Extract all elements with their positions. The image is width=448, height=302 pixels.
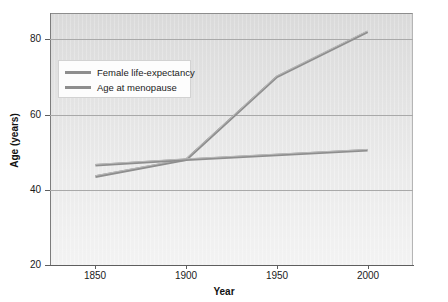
legend-item-female-life-expectancy: Female life-expectancy (65, 65, 184, 80)
gridline (50, 39, 413, 40)
x-tick-label: 2000 (346, 271, 390, 281)
gridline (50, 115, 413, 116)
plot-area (50, 13, 413, 265)
x-tick-label: 1900 (164, 271, 208, 281)
y-tick-mark (45, 190, 50, 191)
y-tick-mark (45, 265, 50, 266)
legend-label: Female life-expectancy (97, 68, 195, 78)
y-tick-label: 20 (30, 260, 41, 270)
chart-figure: 20406080 1850190019502000 Female life-ex… (0, 0, 448, 302)
x-tick-mark (277, 265, 278, 269)
y-axis-line (50, 13, 51, 266)
x-tick-label: 1850 (73, 271, 117, 281)
y-tick-label: 80 (30, 34, 41, 44)
x-axis-title: Year (0, 286, 448, 297)
y-tick-mark (45, 115, 50, 116)
plot-shading (50, 14, 412, 265)
legend-item-age-at-menopause: Age at menopause (65, 80, 184, 95)
x-tick-mark (95, 265, 96, 269)
legend-line-swatch-icon (65, 71, 91, 74)
plot-texture (50, 14, 412, 265)
chart-legend: Female life-expectancy Age at menopause (58, 60, 191, 98)
gridline (50, 190, 413, 191)
legend-label: Age at menopause (97, 83, 177, 93)
x-tick-mark (368, 265, 369, 269)
legend-line-swatch-icon (65, 86, 91, 89)
y-tick-mark (45, 39, 50, 40)
x-tick-label: 1950 (255, 271, 299, 281)
x-tick-mark (186, 265, 187, 269)
y-tick-label: 60 (30, 110, 41, 120)
y-tick-label: 40 (30, 185, 41, 195)
y-axis-title: Age (years) (9, 91, 20, 191)
x-axis-line (50, 265, 414, 266)
